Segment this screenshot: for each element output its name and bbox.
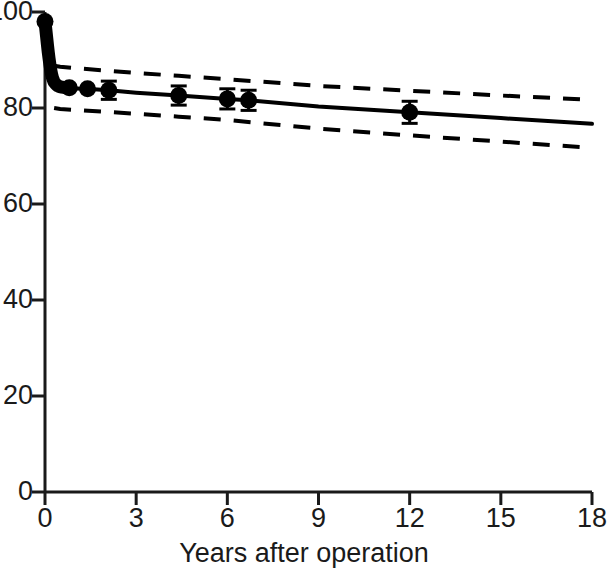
data-point-markers: [37, 13, 419, 121]
data-point-marker: [37, 13, 54, 30]
lower-confidence-band-path: [54, 108, 592, 148]
x-axis-tick-label: 9: [289, 505, 349, 532]
x-axis-tick-label: 18: [562, 505, 608, 532]
y-axis-tick-label: 20: [0, 382, 33, 409]
data-point-marker: [219, 90, 236, 107]
y-axis-tick-label: 40: [0, 286, 33, 313]
x-axis-tick-label: 15: [471, 505, 531, 532]
x-axis-tick-label: 6: [197, 505, 257, 532]
y-axis-ticks: [32, 12, 45, 492]
data-point-marker: [61, 79, 78, 96]
x-axis-tick-label: 3: [106, 505, 166, 532]
data-point-marker: [401, 104, 418, 121]
y-axis-tick-label: 80: [0, 94, 33, 121]
y-axis-tick-label: 60: [0, 190, 33, 217]
axes: [45, 12, 592, 492]
data-point-marker: [240, 92, 257, 109]
y-axis-tick-label: 100: [0, 0, 33, 25]
upper-confidence-band-path: [54, 66, 592, 100]
x-axis-title: Years after operation: [0, 540, 608, 567]
x-axis-tick-label: 0: [15, 505, 75, 532]
survival-chart: 020406080100 0369121518 Years after oper…: [0, 0, 608, 573]
data-point-marker: [170, 87, 187, 104]
y-axis-tick-label: 0: [0, 478, 33, 505]
plot-area: [0, 0, 608, 573]
data-point-marker: [100, 82, 117, 99]
data-point-marker: [79, 80, 96, 97]
x-axis-tick-label: 12: [380, 505, 440, 532]
